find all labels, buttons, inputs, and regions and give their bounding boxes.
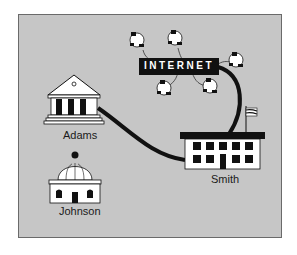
- smith-label: Smith: [211, 173, 239, 185]
- internet-label: INTERNET: [139, 60, 219, 71]
- computer-icon: [168, 30, 182, 45]
- computer-icon: [130, 32, 144, 47]
- flag-icon: [246, 108, 257, 116]
- classical-building-icon: [44, 75, 104, 124]
- adams-label: Adams: [63, 129, 97, 141]
- computer-icon: [229, 52, 243, 67]
- computer-icon: [157, 80, 171, 95]
- johnson-label: Johnson: [59, 205, 101, 217]
- domed-building-icon: [49, 152, 101, 204]
- school-building-icon: [180, 106, 265, 169]
- computer-icon: [203, 78, 217, 93]
- smith-internet-cable: [218, 67, 240, 134]
- network-diagram: [0, 0, 297, 255]
- adams-smith-cable: [98, 108, 185, 160]
